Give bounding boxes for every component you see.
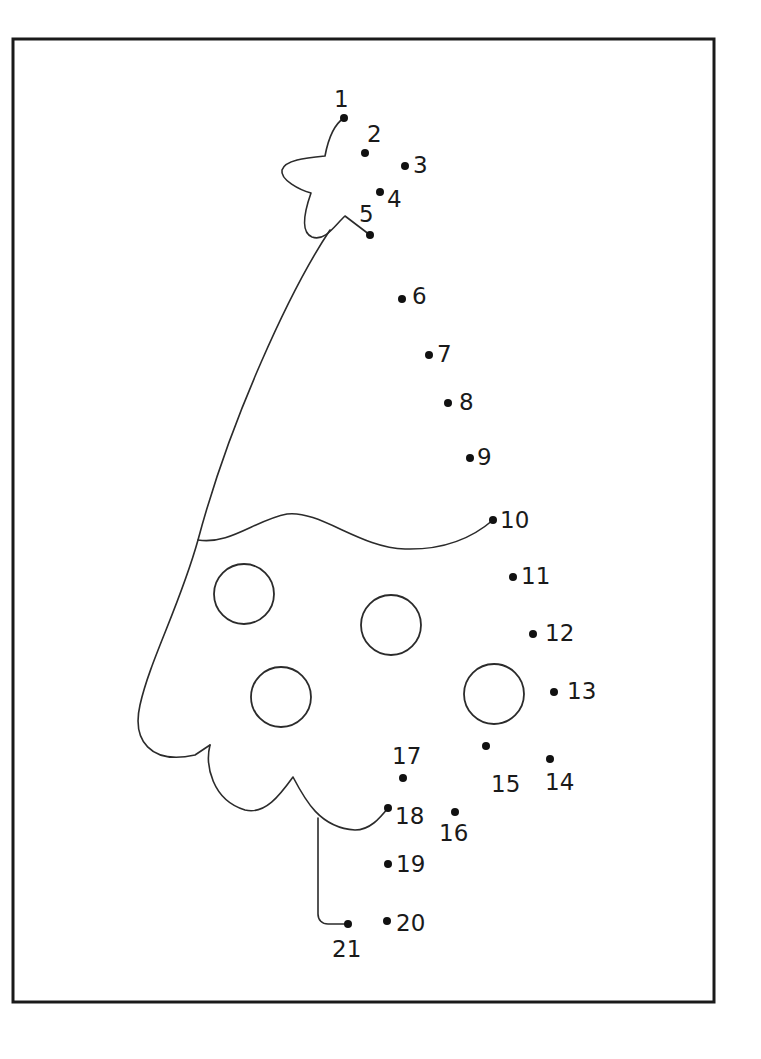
dot-marker xyxy=(344,920,352,928)
dot-marker xyxy=(361,149,369,157)
dot-21: 21 xyxy=(332,920,361,962)
dot-marker xyxy=(451,808,459,816)
dot-16: 16 xyxy=(439,808,468,846)
dot-marker xyxy=(509,573,517,581)
garland-wave xyxy=(198,514,493,549)
tree-left-edge xyxy=(138,230,330,757)
dot-5: 5 xyxy=(359,201,374,239)
dot-marker xyxy=(466,454,474,462)
dot-marker xyxy=(399,774,407,782)
dot-number-label: 2 xyxy=(367,121,382,147)
dot-20: 20 xyxy=(383,910,425,936)
dot-number-label: 7 xyxy=(437,341,452,367)
tree-trunk xyxy=(318,818,348,924)
dot-15: 15 xyxy=(482,742,520,797)
dot-number-label: 3 xyxy=(413,152,428,178)
ornament-circle xyxy=(251,667,311,727)
dot-number-label: 5 xyxy=(359,201,374,227)
dot-marker xyxy=(384,860,392,868)
dot-number-label: 19 xyxy=(396,851,425,877)
dot-marker xyxy=(383,917,391,925)
dot-number-label: 1 xyxy=(334,86,349,112)
dot-10: 10 xyxy=(489,507,529,533)
dot-14: 14 xyxy=(545,755,574,795)
dot-marker xyxy=(550,688,558,696)
dot-number-label: 6 xyxy=(412,283,427,309)
tree-bottom-scallops xyxy=(209,745,388,830)
dot-number-label: 13 xyxy=(567,678,596,704)
dot-number-label: 21 xyxy=(332,936,361,962)
dot-13: 13 xyxy=(550,678,596,704)
ornament-circle xyxy=(361,595,421,655)
dot-19: 19 xyxy=(384,851,425,877)
dot-number-label: 11 xyxy=(521,563,550,589)
dot-12: 12 xyxy=(529,620,574,646)
dot-marker xyxy=(529,630,537,638)
dot-marker xyxy=(401,162,409,170)
dot-11: 11 xyxy=(509,563,550,589)
dot-8: 8 xyxy=(444,389,474,415)
dot-7: 7 xyxy=(425,341,452,367)
dot-marker xyxy=(384,804,392,812)
dot-17: 17 xyxy=(392,743,421,782)
dot-marker xyxy=(546,755,554,763)
dot-number-label: 10 xyxy=(500,507,529,533)
dot-to-dot-worksheet: 123456789101112131415161718192021 xyxy=(0,0,761,1059)
dot-4: 4 xyxy=(376,186,402,212)
dot-number-label: 15 xyxy=(491,771,520,797)
dot-marker xyxy=(398,295,406,303)
dot-18: 18 xyxy=(384,803,424,829)
dot-number-label: 20 xyxy=(396,910,425,936)
ornament-circles xyxy=(214,564,524,727)
dot-marker xyxy=(425,351,433,359)
dot-marker xyxy=(340,114,348,122)
dot-number-label: 12 xyxy=(545,620,574,646)
dot-6: 6 xyxy=(398,283,427,309)
dot-marker xyxy=(366,231,374,239)
dot-number-label: 9 xyxy=(477,444,492,470)
dot-1: 1 xyxy=(334,86,349,122)
dot-marker xyxy=(489,516,497,524)
dot-marker xyxy=(376,188,384,196)
dot-marker xyxy=(482,742,490,750)
page-border xyxy=(13,39,714,1002)
dot-9: 9 xyxy=(466,444,492,470)
dot-number-label: 8 xyxy=(459,389,474,415)
dot-number-label: 18 xyxy=(395,803,424,829)
dot-number-label: 16 xyxy=(439,820,468,846)
star-outline xyxy=(282,118,370,238)
dot-2: 2 xyxy=(361,121,382,157)
ornament-circle xyxy=(214,564,274,624)
numbered-dots: 123456789101112131415161718192021 xyxy=(332,86,596,962)
dot-number-label: 14 xyxy=(545,769,574,795)
dot-number-label: 4 xyxy=(387,186,402,212)
dot-number-label: 17 xyxy=(392,743,421,769)
dot-marker xyxy=(444,399,452,407)
dot-3: 3 xyxy=(401,152,428,178)
tree-drawing xyxy=(138,118,493,924)
ornament-circle xyxy=(464,664,524,724)
